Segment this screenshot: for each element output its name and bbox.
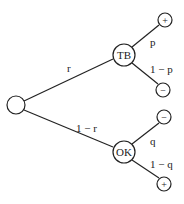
plus-icon: + [161, 179, 167, 190]
ok-plus-leaf: + [157, 177, 171, 191]
minus-icon: − [161, 112, 167, 123]
edge-label-p: p [150, 36, 156, 48]
ok-node: OK [113, 141, 135, 163]
edge-root-ok [24, 110, 113, 147]
edge-label-q: q [150, 135, 156, 147]
ok-minus-leaf: − [157, 110, 171, 124]
edge-label-1-minus-p: 1 − p [150, 63, 173, 75]
plus-icon: + [162, 15, 168, 26]
tb-minus-leaf: − [156, 83, 170, 97]
probability-tree-diagram: TB OK + − − + r 1 − r p 1 − p q 1 − q [0, 0, 184, 204]
ok-node-label: OK [116, 146, 132, 158]
root-node [7, 96, 25, 114]
edge-label-1-minus-q: 1 − q [150, 158, 173, 170]
tb-node-label: TB [117, 49, 131, 61]
tb-plus-leaf: + [158, 13, 172, 27]
edge-label-1-minus-r: 1 − r [76, 122, 97, 134]
edge-label-r: r [67, 62, 71, 74]
tb-node: TB [113, 44, 135, 66]
minus-icon: − [160, 85, 166, 96]
